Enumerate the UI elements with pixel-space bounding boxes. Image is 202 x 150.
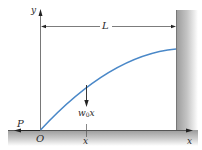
beam-diagram [0, 0, 202, 150]
dimension-arrow-left-icon [41, 25, 46, 28]
y-axis-label: y [31, 6, 36, 15]
load-arrow-head-icon [84, 100, 88, 107]
deflection-curve [41, 49, 177, 130]
x-axis-label: x [187, 137, 192, 146]
y-axis-arrow-icon [39, 9, 43, 16]
length-label: L [102, 21, 109, 31]
force-p-label: P [17, 119, 24, 129]
fixed-wall [176, 10, 198, 131]
load-symbol: w [78, 108, 86, 118]
dimension-arrow-right-icon [171, 25, 176, 28]
load-label: w0x [78, 109, 95, 118]
x-tick-label: x [83, 137, 88, 146]
origin-label: O [36, 134, 44, 144]
load-variable: x [90, 108, 95, 118]
